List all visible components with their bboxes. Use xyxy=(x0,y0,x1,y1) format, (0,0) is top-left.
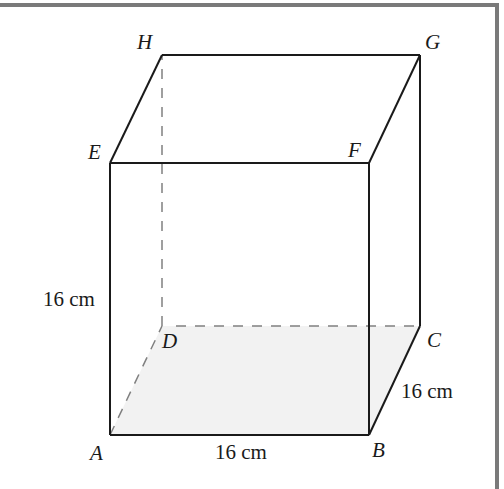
frame-right-border xyxy=(495,3,499,489)
vertex-label-c: C xyxy=(427,328,442,352)
vertex-label-e: E xyxy=(87,140,101,164)
dimension-label-length: 16 cm xyxy=(215,440,267,464)
cube-diagram: H G E F D C A B 16 cm 16 cm 16 cm xyxy=(0,0,504,489)
vertex-label-g: G xyxy=(425,30,440,54)
vertex-label-f: F xyxy=(347,138,361,162)
dimension-label-height: 16 cm xyxy=(43,287,95,311)
dimension-label-depth: 16 cm xyxy=(401,379,453,403)
vertex-label-h: H xyxy=(136,30,154,54)
edge-he xyxy=(110,55,162,163)
frame-top-border xyxy=(0,3,499,7)
edge-fg xyxy=(369,55,420,163)
base-face-abcd xyxy=(110,326,420,435)
vertex-label-d: D xyxy=(161,329,177,353)
vertex-label-b: B xyxy=(372,438,385,462)
vertex-label-a: A xyxy=(88,441,103,465)
